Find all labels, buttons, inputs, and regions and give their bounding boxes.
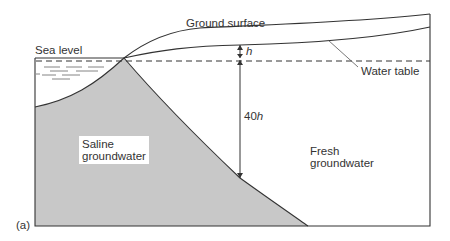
fresh-label-line1: Fresh [310,145,374,157]
water-table-label: Water table [361,65,419,77]
saline-label-line2: groundwater [82,150,146,162]
saline-label-line1: Saline [82,138,146,150]
saline-groundwater-region [35,58,308,226]
saline-groundwater-label: Saline groundwater [79,136,149,164]
forty-h-variable: h [257,110,263,122]
forty-h-number: 40 [244,110,257,122]
fresh-groundwater-label: Fresh groundwater [310,145,374,169]
sea-ripples [36,67,104,79]
water-table-leader-line [328,40,358,67]
forty-h-label: 40h [244,110,263,122]
fresh-label-line2: groundwater [310,157,374,169]
ground-surface-line [124,14,430,58]
h-dimension-arrow [237,45,243,58]
sea-level-label: Sea level [35,44,82,56]
h-label: h [246,45,252,57]
ghyben-herzberg-diagram [0,0,450,241]
water-table-line [124,27,430,58]
forty-h-dimension-arrow [237,60,243,178]
panel-label: (a) [16,219,30,231]
ground-surface-label: Ground surface [186,17,265,29]
